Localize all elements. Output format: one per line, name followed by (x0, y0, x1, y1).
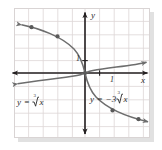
plot-point (29, 25, 33, 29)
radical-index: 3 (33, 93, 36, 98)
radical-sign: 3 x (32, 96, 43, 107)
plot-point (136, 117, 140, 121)
curve-label-y: y (17, 97, 21, 107)
curve-label-cube-root: y = 3 x (17, 96, 44, 107)
origin-point (83, 71, 87, 75)
plot-svg (0, 0, 162, 150)
curve2-coefficient: −3 (105, 94, 116, 104)
curve2-label-y: y (90, 94, 94, 104)
x-axis-label: x (141, 76, 145, 85)
radical-sign-2: 3 x (116, 93, 127, 104)
radicand: x (39, 97, 43, 107)
plot-point (55, 34, 59, 38)
y-axis-label: y (91, 11, 95, 20)
x-axis-tick-label-1: 1 (110, 76, 114, 84)
curve2-label-equals: = (97, 94, 103, 104)
curve-label-equals: = (24, 97, 30, 107)
graph-figure: y x 1 1 y = 3 x y = −3 3 x (0, 0, 162, 150)
radicand-2: x (123, 94, 127, 104)
curve-label-neg-three-cube-root: y = −3 3 x (90, 93, 128, 104)
radical-index-2: 3 (117, 90, 120, 95)
y-axis-tick-label-1: 1 (76, 55, 80, 63)
plot-point (110, 108, 114, 112)
